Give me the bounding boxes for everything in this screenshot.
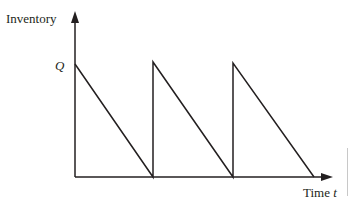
inventory-series-line bbox=[75, 62, 314, 177]
x-axis-label-word: Time bbox=[303, 185, 330, 200]
x-axis-arrow-icon bbox=[321, 173, 333, 181]
page-edge-divider bbox=[347, 148, 348, 196]
y-axis-arrow-icon bbox=[71, 11, 79, 23]
q-tick-label: Q bbox=[55, 58, 65, 73]
x-axis-label: Time t bbox=[303, 185, 337, 200]
y-axis-label: Inventory bbox=[6, 11, 57, 26]
inventory-chart: Inventory Q Time t bbox=[0, 0, 350, 203]
x-axis-label-var: t bbox=[333, 185, 337, 200]
